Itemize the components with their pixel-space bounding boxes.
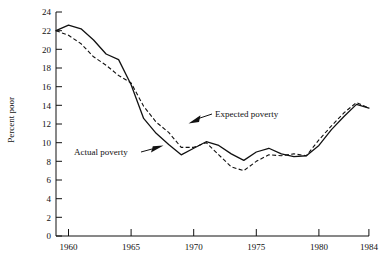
y-axis-title-group: Percent poor: [6, 97, 16, 143]
y-tick-label-10: 10: [42, 138, 52, 148]
y-tick-label-8: 8: [47, 157, 52, 167]
x-tick-label-1984: 1984: [360, 242, 379, 252]
x-tick-label-1960: 1960: [60, 242, 79, 252]
annotation-expected-poverty-arrowhead: [189, 115, 201, 123]
x-tick-label-1980: 1980: [310, 242, 329, 252]
annotation-expected-poverty-label: Expected poverty: [215, 109, 279, 119]
x-tick-label-1965: 1965: [122, 242, 141, 252]
y-tick-label-16: 16: [42, 82, 52, 92]
y-tick-label-12: 12: [42, 119, 51, 129]
y-tick-label-20: 20: [42, 45, 52, 55]
y-tick-label-4: 4: [47, 194, 52, 204]
annotation-actual-poverty-arrowhead: [151, 146, 164, 153]
y-tick-label-14: 14: [42, 101, 52, 111]
y-tick-label-2: 2: [47, 213, 52, 223]
poverty-line-chart: Percent poor 24 22 2: [0, 0, 383, 261]
y-tick-marks: [56, 12, 62, 236]
annotation-actual-poverty: Actual poverty: [74, 146, 164, 158]
y-axis-title: Percent poor: [6, 97, 16, 143]
y-tick-label-22: 22: [42, 26, 51, 36]
x-tick-marks: [69, 229, 369, 236]
y-tick-label-18: 18: [42, 63, 52, 73]
y-axis: 24 22 20 18 16 14 12 10 8 6 4 2 0: [42, 7, 62, 241]
annotation-expected-poverty: Expected poverty: [189, 109, 279, 124]
x-tick-labels: 1960 1965 1970 1975 1980 1984: [60, 242, 379, 252]
chart-canvas: Percent poor 24 22 2: [0, 0, 383, 261]
y-tick-label-0: 0: [47, 231, 52, 241]
x-tick-label-1970: 1970: [185, 242, 204, 252]
annotation-actual-poverty-label: Actual poverty: [74, 147, 128, 157]
y-tick-label-6: 6: [47, 175, 52, 185]
series-actual-poverty: [56, 25, 369, 160]
y-tick-label-24: 24: [42, 7, 52, 17]
annotation-actual-poverty-leader: [141, 149, 152, 152]
y-tick-labels: 24 22 20 18 16 14 12 10 8 6 4 2 0: [42, 7, 52, 241]
x-axis: 1960 1965 1970 1975 1980 1984: [56, 229, 378, 252]
x-tick-label-1975: 1975: [247, 242, 266, 252]
